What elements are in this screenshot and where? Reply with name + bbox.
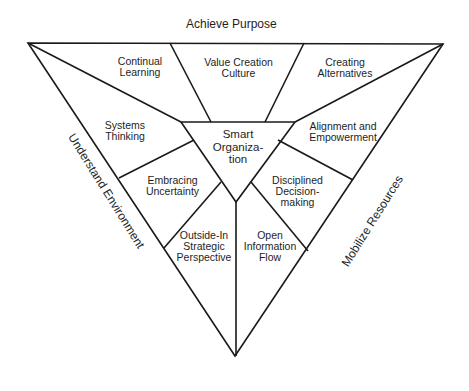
segment-alignment-empowerment: Alignment and Empowerment [298,121,388,143]
divider-left-mid [119,140,194,178]
segment-value-creation-culture: Value Creation Culture [191,57,286,79]
top-label: Achieve Purpose [186,17,277,31]
segment-creating-alternatives: Creating Alternatives [300,57,390,79]
segment-embracing-uncertainty: Embracing Uncertainty [135,175,210,197]
center-smart-organization: Smart Organiza- tion [205,128,271,166]
divider-top-right [265,43,304,122]
segment-open-information-flow: Open Information Flow [238,230,302,263]
segment-systems-thinking: Systems Thinking [95,120,155,142]
divider-right-diagonal [295,44,443,122]
divider-top-left [170,43,211,122]
segment-outside-in-strategic-perspective: Outside-In Strategic Perspective [172,230,236,263]
segment-continual-learning: Continual Learning [100,56,180,78]
segment-disciplined-decision-making: Disciplined Decision- making [260,175,335,208]
